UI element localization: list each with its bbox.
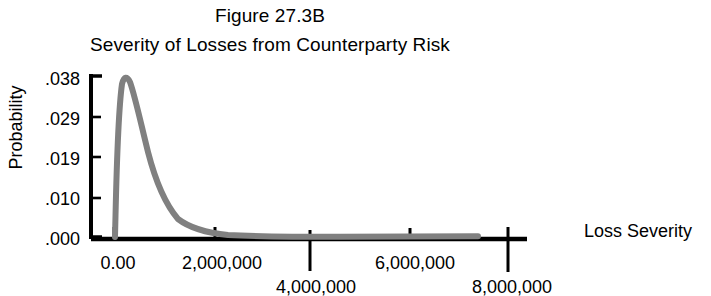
y-tick-label-029: .029 [18,110,80,128]
figure-container: Figure 27.3B Severity of Losses from Cou… [0,0,711,296]
y-tick-label-019: .019 [18,150,80,168]
plot-area [0,0,711,296]
x-tick-label-0: 0.00 [100,254,135,272]
x-tick-label-4000000: 4,000,000 [276,278,356,296]
x-tick-label-2000000: 2,000,000 [182,254,262,272]
y-tick-label-010: .010 [18,190,80,208]
y-tick-label-000: .000 [18,230,80,248]
x-tick-label-6000000: 6,000,000 [375,254,455,272]
y-tick-label-038: .038 [18,70,80,88]
x-tick-label-8000000: 8,000,000 [472,278,552,296]
density-curve [115,78,478,237]
